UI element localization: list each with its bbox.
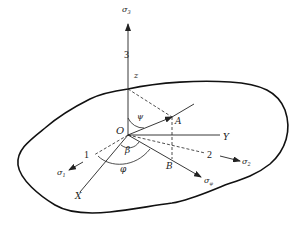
principal-2-label: 2 [207,149,212,160]
stress-diagram-svg: σ3 3 z O ψ A Y β φ 2 σ2 B σφ 1 σ1 X [0,0,302,243]
principal-3-label: 3 [124,49,129,60]
sigma3-label: σ3 [122,5,131,15]
diagram-canvas: σ3 3 z O ψ A Y β φ 2 σ2 B σφ 1 σ1 X [0,0,302,243]
line-to-sigma-phi [128,135,201,177]
x-axis-label: X [74,191,82,201]
sigma1-label: σ1 [57,168,66,178]
body-outline [18,81,288,213]
origin-label: O [116,125,124,136]
z-label: z [133,71,139,80]
dashed-z-to-a [128,89,172,117]
arrow-sigma2 [220,156,240,161]
point-a-label: A [174,116,182,126]
dashed-to-1 [94,135,128,155]
sigma-phi-label: σφ [204,176,213,187]
y-axis-label: Y [223,132,230,142]
sigma2-label: σ2 [242,157,251,167]
phi-label: φ [120,164,127,174]
beta-label: β [124,145,130,155]
line-oa [128,117,172,135]
arrow-sigma1 [69,162,83,170]
point-b-label: B [165,161,173,171]
principal-1-label: 1 [84,149,89,160]
dashed-to-2 [128,135,205,153]
psi-label: ψ [137,112,144,121]
